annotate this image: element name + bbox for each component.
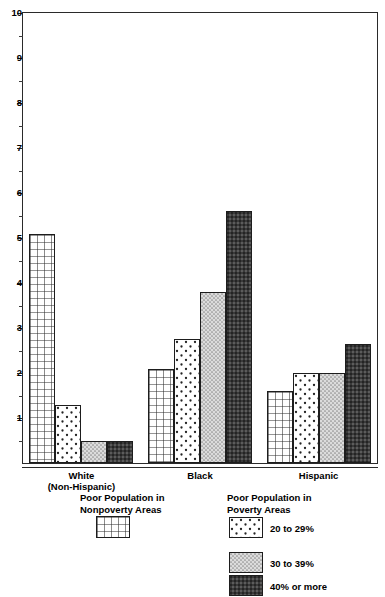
x-axis-group-label: White(Non-Hispanic) [21, 470, 141, 492]
legend-swatch-nonpoverty [96, 516, 130, 538]
legend-swatch-sparse-dots [229, 517, 263, 538]
legend-title-poverty: Poor Population in Poverty Areas [227, 492, 311, 515]
legend-swatch-light-stipple [229, 552, 263, 573]
legend-swatch-dark-stipple [229, 575, 263, 596]
x-axis-group-label: Black [140, 470, 260, 481]
group-label-line2: (Non-Hispanic) [21, 481, 141, 492]
legend-title-nonpoverty: Poor Population in Nonpoverty Areas [80, 492, 164, 515]
group-label-line1: White [21, 470, 141, 481]
grouped-bar-chart: 10987654321 White(Non-Hispanic)BlackHisp… [0, 0, 385, 597]
x-axis-group-label: Hispanic [259, 470, 379, 481]
legend-label-0: 20 to 29% [270, 523, 314, 534]
legend-label-1: 30 to 39% [270, 558, 314, 569]
group-label-line1: Hispanic [259, 470, 379, 481]
legend-label-2: 40% or more [270, 581, 327, 592]
group-label-line1: Black [140, 470, 260, 481]
legend-and-group-labels: White(Non-Hispanic)BlackHispanicPoor Pop… [0, 0, 385, 597]
